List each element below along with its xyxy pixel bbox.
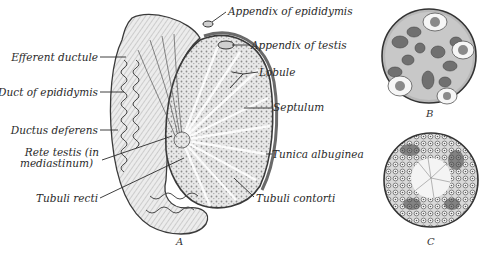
- panel-b-section: [382, 9, 476, 104]
- label-ductus-deferens: Ductus deferens: [11, 125, 98, 136]
- label-lobule: Lobule: [259, 67, 295, 78]
- label-appendix-of-testis: Appendix of testis: [251, 40, 347, 51]
- label-tubuli-recti: Tubuli recti: [36, 193, 98, 204]
- appendix-of-testis-shape: [218, 41, 234, 49]
- label-efferent-ductule: Efferent ductule: [11, 52, 98, 63]
- panel-letter-a: A: [176, 236, 183, 247]
- panel-letter-c: C: [427, 236, 435, 247]
- label-tubuli-contorti: Tubuli contorti: [256, 193, 335, 204]
- label-tunica-albuginea: Tunica albuginea: [272, 149, 364, 160]
- anatomy-figure: Appendix of epididymis Appendix of testi…: [0, 0, 491, 253]
- label-duct-of-epididymis: Duct of epididymis: [0, 87, 98, 98]
- appendix-of-epididymis-shape: [203, 21, 213, 27]
- panel-letter-b: B: [426, 108, 433, 119]
- label-appendix-of-epididymis: Appendix of epididymis: [228, 6, 353, 17]
- panel-c-section: [384, 133, 478, 227]
- rete-testis: [174, 132, 190, 148]
- label-rete-testis-line2: mediastinum): [20, 158, 93, 169]
- label-septulum: Septulum: [273, 102, 324, 113]
